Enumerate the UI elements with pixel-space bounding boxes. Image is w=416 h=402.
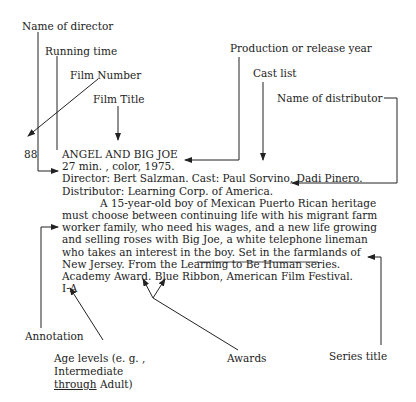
annotation-line: must choose between continuing life with… bbox=[62, 209, 412, 221]
age-level: I-A bbox=[62, 282, 412, 294]
label-cast-list: Cast list bbox=[253, 67, 297, 79]
label-name-of-director: Name of director bbox=[22, 20, 113, 32]
label-awards: Awards bbox=[227, 352, 267, 364]
label-production-year: Production or release year bbox=[230, 42, 372, 54]
age-levels-adult: Adult) bbox=[97, 378, 133, 390]
label-film-number: Film Number bbox=[70, 69, 141, 81]
film-number: 88 bbox=[24, 148, 37, 160]
running-time-color-year: 27 min. , color, 1975. bbox=[62, 160, 412, 172]
annotation-line: A 15-year-old boy of Mexican Puerto Rica… bbox=[62, 197, 412, 209]
label-running-time: Running time bbox=[45, 45, 117, 57]
annotation-line: who takes an interest in the boy. Set in… bbox=[62, 246, 412, 258]
series-suffix: series. bbox=[302, 258, 340, 270]
age-levels-line-2: Intermediate bbox=[54, 365, 145, 378]
label-annotation: Annotation bbox=[25, 330, 84, 342]
age-levels-through: through bbox=[54, 378, 97, 390]
age-levels-line-1: Age levels (e. g. , bbox=[54, 352, 145, 365]
distributor: Distributor: Learning Corp. of America. bbox=[62, 185, 412, 197]
film-title: ANGEL AND BIG JOE bbox=[62, 148, 412, 160]
catalog-entry: ANGEL AND BIG JOE 27 min. , color, 1975.… bbox=[62, 148, 412, 294]
age-levels-line-3: through Adult) bbox=[54, 378, 145, 391]
series-line: New Jersey. From the Learning to Be Huma… bbox=[62, 258, 412, 270]
label-series-title: Series title bbox=[329, 350, 387, 362]
label-age-levels: Age levels (e. g. , Intermediate through… bbox=[54, 352, 145, 391]
label-name-of-distributor: Name of distributor bbox=[277, 92, 383, 104]
annotation-line: worker family, who need his wages, and a… bbox=[62, 221, 412, 233]
awards-line: Academy Award. Blue Ribbon, American Fil… bbox=[62, 270, 412, 282]
label-film-title: Film Title bbox=[93, 93, 144, 105]
series-prefix: New Jersey. From the bbox=[62, 258, 180, 270]
annotation-line: and selling roses with Big Joe, a white … bbox=[62, 233, 412, 245]
series-name: Learning to Be Human bbox=[180, 258, 301, 270]
director-cast: Director: Bert Salzman. Cast: Paul Sorvi… bbox=[62, 172, 412, 184]
